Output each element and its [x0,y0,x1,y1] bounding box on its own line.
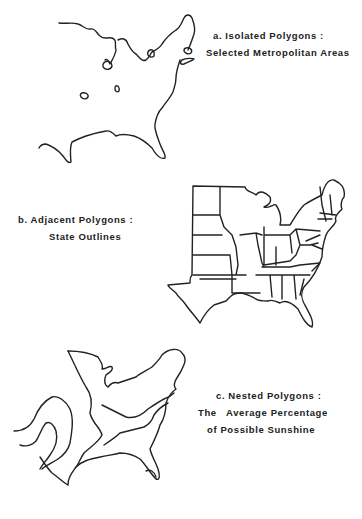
panel-b-caption: b. Adjacent Polygons : State Outlines [18,211,133,245]
panel-c-title: c. Nested Polygons : [198,387,328,404]
coastline [40,349,185,485]
eastern-coastline [39,60,180,163]
panel-adjacent-polygons: b. Adjacent Polygons : State Outlines [0,175,362,345]
panel-c-subtitle-line1: The Average Percentage [198,404,328,421]
metro-polygon [181,58,194,64]
panel-isolated-polygons: a. Isolated Polygons : Selected Metropol… [0,0,362,175]
outer-boundary [168,180,344,327]
panel-nested-polygons: c. Nested Polygons : The Average Percent… [0,345,362,519]
panel-b-title: b. Adjacent Polygons : [18,211,133,228]
isoline [20,422,57,469]
metro-polygon [80,93,88,99]
isoline [14,397,72,469]
state-line [256,263,320,299]
panel-a-caption: a. Isolated Polygons : Selected Metropol… [206,27,350,61]
panel-a-title: a. Isolated Polygons : [206,27,350,44]
isoline [104,403,168,445]
panel-a-subtitle: Selected Metropolitan Areas [206,44,350,61]
northern-coastline [59,15,195,64]
map-state-outlines [0,175,362,345]
panel-c-caption: c. Nested Polygons : The Average Percent… [198,387,328,438]
panel-c-subtitle-line2: of Possible Sunshine [198,421,328,438]
metro-polygon [115,86,119,92]
state-line [240,227,320,267]
metro-polygon [103,61,112,69]
state-line [306,187,336,249]
isoline [68,351,102,467]
state-line [193,187,260,293]
panel-b-subtitle: State Outlines [18,228,133,245]
metro-polygon [184,48,192,54]
